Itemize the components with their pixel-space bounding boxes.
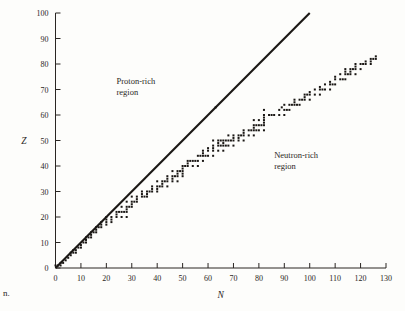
data-point: [286, 109, 288, 111]
data-point: [273, 114, 275, 116]
data-point: [344, 68, 346, 70]
data-point: [95, 231, 97, 233]
data-point: [255, 129, 257, 131]
data-point: [192, 160, 194, 162]
data-point: [197, 160, 199, 162]
data-point: [143, 196, 145, 198]
data-point: [177, 173, 179, 175]
data-point: [131, 201, 133, 203]
data-point: [240, 134, 242, 136]
data-point: [151, 185, 153, 187]
data-point: [309, 94, 311, 96]
data-point: [166, 180, 168, 182]
data-point: [263, 117, 265, 119]
data-point: [212, 140, 214, 142]
data-point: [199, 155, 201, 157]
data-point: [85, 236, 87, 238]
data-point: [156, 188, 158, 190]
data-point: [225, 140, 227, 142]
data-point: [212, 150, 214, 152]
proton-rich-region-label-line2: region: [117, 87, 139, 97]
data-point: [177, 170, 179, 172]
data-point: [334, 76, 336, 78]
data-point: [283, 114, 285, 116]
data-point: [220, 145, 222, 147]
data-point: [171, 180, 173, 182]
data-point: [304, 94, 306, 96]
data-point: [171, 178, 173, 180]
data-point: [268, 114, 270, 116]
data-point: [324, 89, 326, 91]
x-tick-label: 30: [128, 274, 136, 283]
y-tick-label: 20: [41, 213, 49, 222]
data-point: [283, 104, 285, 106]
data-point: [105, 219, 107, 221]
segre-chart: 0102030405060708090100110120130010203040…: [0, 0, 405, 311]
data-point: [258, 119, 260, 121]
data-point: [136, 198, 138, 200]
data-point: [222, 145, 224, 147]
data-point: [72, 249, 74, 251]
nz-reference-line: [56, 13, 310, 268]
data-point: [93, 231, 95, 233]
data-point: [90, 234, 92, 236]
data-point: [217, 142, 219, 144]
data-point: [105, 224, 107, 226]
data-point: [370, 58, 372, 60]
data-point: [141, 191, 143, 193]
data-point: [220, 140, 222, 142]
x-tick-label: 70: [229, 274, 237, 283]
data-point: [352, 68, 354, 70]
data-point: [184, 165, 186, 167]
data-point: [128, 206, 130, 208]
data-point: [354, 63, 356, 65]
data-point: [342, 78, 344, 80]
caption-fragment: n.: [3, 288, 10, 298]
data-point: [324, 83, 326, 85]
data-point: [215, 106, 217, 108]
data-point: [339, 73, 341, 75]
data-point: [293, 104, 295, 106]
data-point: [263, 109, 265, 111]
data-point: [375, 58, 377, 60]
data-point: [80, 247, 82, 249]
data-point: [207, 150, 209, 152]
x-tick-label: 100: [304, 274, 316, 283]
data-point: [110, 219, 112, 221]
data-point: [288, 109, 290, 111]
y-tick-label: 100: [37, 9, 49, 18]
data-point: [375, 55, 377, 57]
stable-nuclide-series: [55, 55, 377, 266]
data-point: [131, 206, 133, 208]
data-point: [258, 129, 260, 131]
proton-rich-region-label-line1: Proton-rich: [117, 76, 156, 86]
data-point: [258, 124, 260, 126]
data-point: [370, 63, 372, 65]
data-point: [248, 134, 250, 136]
data-point: [70, 254, 72, 256]
data-point: [65, 259, 67, 261]
y-tick-label: 0: [45, 264, 49, 273]
data-point: [309, 91, 311, 93]
data-point: [354, 73, 356, 75]
data-point: [171, 170, 173, 172]
data-point: [217, 145, 219, 147]
data-point: [319, 86, 321, 88]
data-point: [121, 216, 123, 218]
data-point: [100, 224, 102, 226]
data-point: [222, 140, 224, 142]
data-point: [243, 134, 245, 136]
data-point: [217, 140, 219, 142]
data-point: [217, 150, 219, 152]
data-point: [293, 99, 295, 101]
data-point: [253, 134, 255, 136]
data-point: [349, 71, 351, 73]
proton-rich-region-label: Proton-richregion: [117, 76, 156, 97]
data-point: [253, 124, 255, 126]
data-point: [339, 78, 341, 80]
data-point: [306, 94, 308, 96]
data-point: [314, 89, 316, 91]
data-point: [156, 191, 158, 193]
y-tick-label: 60: [41, 111, 49, 120]
data-point: [60, 264, 62, 266]
